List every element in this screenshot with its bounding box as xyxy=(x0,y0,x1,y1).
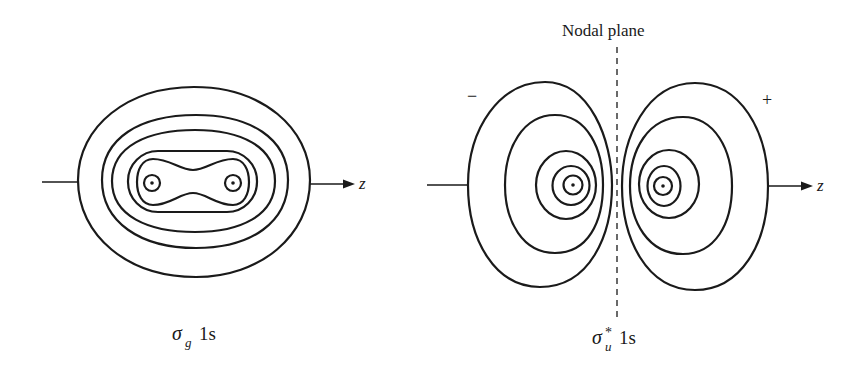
svg-text:1s: 1s xyxy=(199,323,216,344)
z-axis-arrowhead-icon xyxy=(801,182,813,191)
svg-text:g: g xyxy=(185,335,192,350)
nucleus-dot-icon xyxy=(150,181,154,185)
minus-sign-label: − xyxy=(467,86,477,106)
sigma-u-antibonding-panel: Nodal plane z − + σ * u xyxy=(427,21,824,354)
nucleus-dot-icon xyxy=(661,184,665,188)
nucleus-dot-icon xyxy=(231,181,235,185)
svg-text:1s: 1s xyxy=(619,327,636,348)
sigma-u-star-caption: σ * u 1s xyxy=(592,325,636,354)
positive-lobe xyxy=(622,83,768,290)
lobe-contour-3 xyxy=(536,151,596,219)
nucleus-b xyxy=(225,175,241,191)
svg-text:σ: σ xyxy=(592,326,603,348)
lobe-contour-1 xyxy=(622,83,768,290)
plus-sign-label: + xyxy=(762,90,772,110)
svg-text:σ: σ xyxy=(172,322,183,344)
z-axis-label: z xyxy=(358,174,366,193)
sigma-g-bonding-panel: z σ g 1s xyxy=(42,87,366,350)
z-axis-arrowhead-icon xyxy=(343,180,355,189)
lobe-contour-2 xyxy=(505,115,603,253)
svg-text:*: * xyxy=(605,325,612,340)
contour-2 xyxy=(102,115,288,248)
lobe-contour-4 xyxy=(553,166,590,205)
svg-text:u: u xyxy=(605,339,612,354)
nucleus-dot-icon xyxy=(571,183,575,187)
sigma-g-caption: σ g 1s xyxy=(172,322,216,350)
mo-contour-diagram: z σ g 1s Nodal plane z xyxy=(0,0,860,376)
z-axis-label: z xyxy=(816,176,824,195)
nodal-plane-title: Nodal plane xyxy=(562,21,645,40)
nucleus-a xyxy=(144,175,160,191)
negative-lobe xyxy=(468,82,612,287)
